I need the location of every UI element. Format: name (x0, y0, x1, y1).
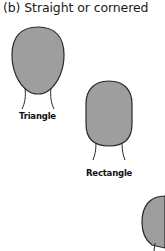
partial-face-icon (142, 196, 165, 251)
face-shapes-figure (0, 0, 165, 251)
rectangle-face-icon (86, 81, 132, 160)
triangle-face-icon (12, 27, 64, 109)
rectangle-label: Rectangle (86, 168, 132, 178)
triangle-label: Triangle (19, 111, 56, 121)
